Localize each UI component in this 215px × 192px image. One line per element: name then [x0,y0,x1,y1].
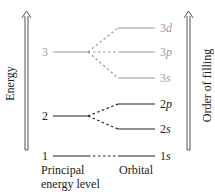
orbital-3p-letter: p [166,45,172,59]
orbital-2p-letter: p [166,97,172,111]
energy-arrow [22,11,31,150]
energy-axis-label: Energy [3,64,18,104]
orbital-1s: 1s [160,150,171,162]
orbital-2s: 2s [160,123,171,135]
level-2-lines [53,104,155,129]
principal-level-1: 1 [42,150,48,162]
orbital-3s-letter: s [166,71,171,85]
orbital-3p: 3p [160,46,172,58]
orbital-2s-letter: s [166,122,171,136]
order-of-filling-label: Order of filling [200,41,215,131]
level-3-lines [53,28,155,78]
orbital-3d-letter: d [166,21,172,35]
order-of-filling-arrow [184,11,193,150]
orbital-2p: 2p [160,98,172,110]
principal-caption-line1: Principal [41,164,84,176]
orbital-3d: 3d [160,22,172,34]
principal-level-3: 3 [42,46,48,58]
orbital-3s: 3s [160,72,171,84]
energy-level-diagram [0,0,214,192]
principal-caption-line2: energy level [41,178,100,190]
orbital-caption: Orbital [119,164,153,176]
principal-level-2: 2 [42,110,48,122]
orbital-1s-letter: s [166,149,171,163]
